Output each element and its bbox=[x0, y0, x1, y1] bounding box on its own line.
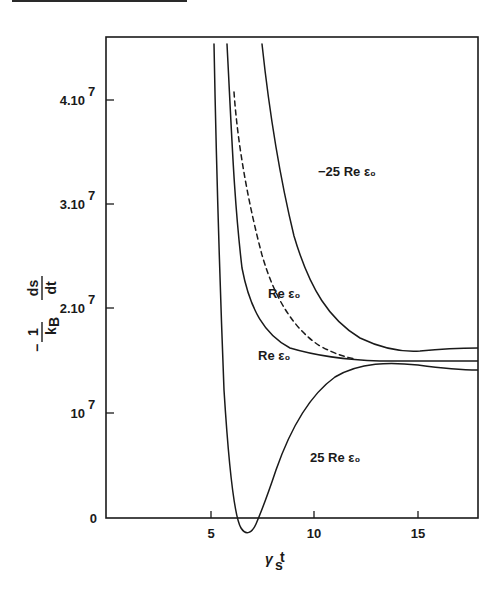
y-tick-label-2e7: 2.10 bbox=[60, 301, 85, 316]
y-tick-label-1e7: 10 bbox=[71, 406, 85, 421]
plot-frame bbox=[106, 37, 478, 518]
x-label-t: t bbox=[280, 549, 285, 565]
y-label-ds: ds bbox=[25, 280, 41, 297]
y-label-k: k bbox=[43, 327, 59, 335]
curve-re-eps0 bbox=[227, 44, 478, 361]
y-label-one: 1 bbox=[25, 328, 41, 336]
x-ticks bbox=[211, 511, 418, 518]
y-ticks bbox=[106, 100, 114, 413]
x-tick-label-15: 15 bbox=[411, 526, 425, 541]
label-re-eps0-lower: Re ε₀ bbox=[258, 348, 290, 363]
y-axis-label: − 1 k B ds dt bbox=[25, 276, 62, 352]
label-25-re-eps0: 25 Re ε₀ bbox=[310, 450, 360, 465]
y-tick-exp-2e7: 7 bbox=[88, 292, 95, 307]
curve-neg25-re-eps0 bbox=[262, 44, 478, 351]
x-axis-label: γ s t bbox=[265, 549, 285, 573]
x-tick-label-5: 5 bbox=[207, 526, 214, 541]
label-neg25-re-eps0: −25 Re ε₀ bbox=[318, 164, 376, 179]
y-tick-label-4e7: 4.10 bbox=[60, 93, 85, 108]
x-tick-label-10: 10 bbox=[307, 526, 321, 541]
y-tick-exp-4e7: 7 bbox=[88, 84, 95, 99]
x-label-gamma: γ bbox=[265, 551, 274, 567]
y-label-minus: − bbox=[29, 344, 45, 352]
y-label-dt: dt bbox=[43, 281, 59, 295]
y-label-k-sub: B bbox=[46, 317, 62, 327]
y-tick-label-0: 0 bbox=[90, 511, 97, 526]
chart: 4.10 7 3.10 7 2.10 7 10 7 0 5 10 15 γ s … bbox=[0, 0, 504, 600]
y-tick-label-3e7: 3.10 bbox=[60, 197, 85, 212]
y-tick-exp-1e7: 7 bbox=[88, 397, 95, 412]
y-tick-exp-3e7: 7 bbox=[88, 188, 95, 203]
label-re-eps0-upper: Re ε₀ bbox=[268, 286, 300, 301]
